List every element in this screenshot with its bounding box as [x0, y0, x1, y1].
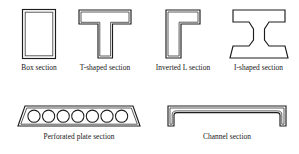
perforation-hole	[43, 110, 55, 122]
perforation-hole	[72, 110, 84, 122]
perforation-hole	[86, 110, 98, 122]
perforation-hole	[116, 110, 128, 122]
figure-item-label-channel-section: Channel section	[203, 132, 251, 142]
channel-section-shape	[166, 104, 288, 128]
figure-item-label-perforated-plate-section: Perforated plate section	[44, 132, 115, 142]
figure-item-perforated-plate-section: Perforated plate section	[8, 104, 150, 142]
t-shaped-section-shape	[77, 8, 133, 60]
figure-item-i-shaped-section: I-shaped section	[218, 8, 299, 73]
box-section-shape	[17, 8, 61, 60]
figure-item-label-t-shaped-section: T-shaped section	[80, 63, 130, 73]
perforated-plate-section-shape	[16, 104, 142, 128]
i-shaped-section-shape	[228, 8, 290, 60]
cross-section-figure: Box section T-shaped section Inverted L …	[0, 0, 299, 154]
perforation-hole	[57, 110, 69, 122]
inverted-l-section-shape	[164, 8, 202, 60]
perforation-hole	[101, 110, 113, 122]
figure-item-inverted-l-section: Inverted L section	[146, 8, 220, 73]
figure-item-label-inverted-l-section: Inverted L section	[156, 63, 210, 73]
perforation-hole	[28, 110, 40, 122]
figure-item-label-i-shaped-section: I-shaped section	[234, 63, 283, 73]
figure-item-t-shaped-section: T-shaped section	[66, 8, 144, 73]
figure-item-channel-section: Channel section	[155, 104, 299, 142]
figure-item-label-box-section: Box section	[21, 63, 57, 73]
